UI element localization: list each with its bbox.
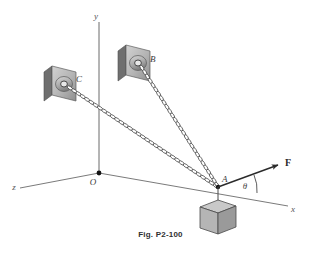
coordinate-axes: y x z O [11,11,295,214]
figure-container: y x z O C B [0,0,321,274]
point-a-label: A [221,174,228,184]
plate-c-eyelet [61,81,68,87]
x-axis-label: x [290,204,295,214]
angle-theta-arc [254,175,257,193]
x-axis-line [99,173,288,206]
plate-c-thickness [44,66,52,101]
figure-caption: Fig. P2-100 [0,230,321,239]
point-b-label: B [150,54,156,64]
angle-theta-label: θ [243,181,248,191]
origin-label: O [90,177,97,187]
z-axis-label: z [11,182,16,192]
chain-cable-a-to-c [67,85,220,189]
force-vector-f: F [218,157,291,187]
z-axis-line [20,173,99,188]
wall-anchor-plate-c: C [44,66,83,101]
suspended-block [200,187,236,234]
force-vector-label: F [285,157,291,168]
wall-anchor-plate-b: B [118,45,156,81]
plate-b-thickness [118,45,126,81]
point-c-label: C [76,74,83,84]
origin-point-marker [97,171,102,176]
y-axis-label: y [93,11,98,21]
chain-cable-a-to-b [139,65,220,189]
point-a: A [216,174,228,189]
